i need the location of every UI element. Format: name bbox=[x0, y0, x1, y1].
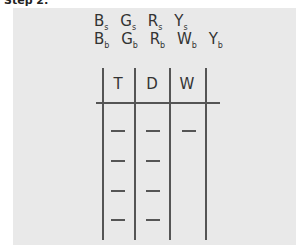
symbol-bs: Bs bbox=[94, 12, 108, 30]
symbol-bb: Bb bbox=[94, 30, 109, 48]
column-header-t: T bbox=[101, 75, 135, 93]
table-header-rule bbox=[96, 102, 220, 104]
blank-r4-t bbox=[111, 219, 125, 221]
step-heading: Step 2: bbox=[4, 0, 48, 7]
table-border-left bbox=[102, 68, 104, 240]
small-sizes-row: Bs Gs Rs Ys bbox=[94, 12, 195, 32]
symbol-gs: Gs bbox=[120, 12, 136, 30]
symbol-yb: Yb bbox=[209, 30, 223, 48]
blank-r2-d bbox=[146, 160, 160, 162]
symbol-gb: Gb bbox=[121, 30, 138, 48]
blank-r1-t bbox=[111, 130, 125, 132]
symbol-ys: Ys bbox=[174, 12, 187, 30]
table-border-right bbox=[205, 68, 207, 240]
blank-r2-t bbox=[111, 160, 125, 162]
blank-r3-d bbox=[146, 190, 160, 192]
column-header-w: W bbox=[170, 75, 204, 93]
symbol-wb: Wb bbox=[177, 30, 197, 48]
table-divider-2 bbox=[169, 68, 171, 240]
blank-r3-t bbox=[111, 190, 125, 192]
blank-r1-w bbox=[182, 130, 196, 132]
symbol-rb: Rb bbox=[150, 30, 166, 48]
column-header-d: D bbox=[135, 75, 169, 93]
symbol-rs: Rs bbox=[148, 12, 163, 30]
big-sizes-row: Bb Gb Rb Wb Yb bbox=[94, 30, 230, 50]
blank-r4-d bbox=[146, 219, 160, 221]
blank-r1-d bbox=[146, 130, 160, 132]
table-divider-1 bbox=[134, 68, 136, 240]
